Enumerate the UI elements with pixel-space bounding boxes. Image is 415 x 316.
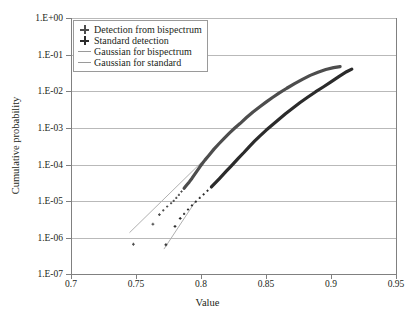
gridline [71, 91, 397, 92]
legend-label: Detection from bispectrum [92, 24, 202, 35]
x-tick-label: 0.7 [49, 280, 93, 290]
gridline [71, 128, 397, 129]
gridline [71, 18, 397, 19]
y-tick-mark [66, 165, 71, 166]
legend-item-gaussian-for-bispectrum[interactable]: Gaussian for bispectrum [77, 46, 202, 57]
y-tick-mark [66, 128, 71, 129]
x-tick-label: 0.75 [114, 280, 158, 290]
y-tick-label: 1.E-03 [37, 124, 63, 134]
chart-root: 1.E+00 1.E-01 1.E-02 1.E-03 1.E-04 1.E-0… [0, 0, 415, 316]
y-tick-mark [66, 55, 71, 56]
y-tick-mark [66, 201, 71, 202]
gridline [71, 238, 397, 239]
y-tick-label: 1.E-07 [37, 270, 63, 280]
x-axis-line [71, 274, 397, 275]
y-tick-mark [66, 91, 71, 92]
y-tick-label: 1.E-01 [37, 51, 63, 61]
y-tick-mark [66, 238, 71, 239]
x-tick-label: 0.9 [309, 280, 353, 290]
y-tick-label: 1.E+00 [35, 14, 63, 24]
y-tick-label: 1.E-06 [37, 234, 63, 244]
legend-item-gaussian-for-standard[interactable]: Gaussian for standard [77, 57, 202, 68]
plus-marker-icon [77, 24, 92, 35]
legend-item-standard-detection[interactable]: Standard detection [77, 35, 202, 46]
legend-label: Gaussian for standard [92, 57, 181, 68]
y-tick-label: 1.E-05 [37, 197, 63, 207]
plus-marker-icon [77, 35, 92, 46]
plot-right-border [396, 18, 397, 275]
legend-label: Standard detection [92, 35, 169, 46]
line-swatch-icon [77, 57, 92, 68]
gridline [71, 201, 397, 202]
x-axis-title: Value [0, 297, 415, 308]
gridline [71, 165, 397, 166]
chart-legend: Detection from bispectrum Standard detec… [73, 20, 208, 72]
x-tick-label: 0.85 [244, 280, 288, 290]
y-tick-mark [66, 18, 71, 19]
y-tick-label: 1.E-02 [37, 87, 63, 97]
y-axis-line [71, 18, 72, 275]
legend-label: Gaussian for bispectrum [92, 46, 192, 57]
line-swatch-icon [77, 46, 92, 57]
y-tick-label: 1.E-04 [37, 161, 63, 171]
legend-item-detection-from-bispectrum[interactable]: Detection from bispectrum [77, 24, 202, 35]
y-axis-title: Cumulative probability [10, 61, 21, 231]
x-tick-label: 0.95 [374, 280, 415, 290]
x-tick-label: 0.8 [179, 280, 223, 290]
